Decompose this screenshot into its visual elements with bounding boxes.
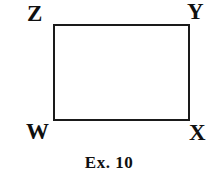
vertex-label-z: Z (27, 2, 42, 25)
figure-caption: Ex. 10 (0, 153, 218, 173)
rectangle-shape (53, 24, 190, 121)
vertex-label-y: Y (187, 0, 204, 23)
vertex-label-w: W (26, 120, 49, 143)
geometry-figure: Z Y W X Ex. 10 (0, 0, 218, 183)
vertex-label-x: X (189, 121, 206, 144)
